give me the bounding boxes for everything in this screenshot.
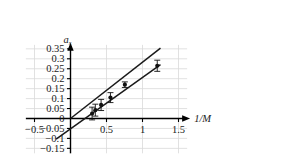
y-tick-label: 0.25 <box>46 63 64 74</box>
x-tick-label: 1 <box>140 124 145 135</box>
y-tick-label: 0.1 <box>51 93 64 104</box>
data-point-marker <box>90 111 94 115</box>
y-axis-title-subscript: s <box>69 39 72 47</box>
y-tick-label: 0 <box>59 113 64 124</box>
scatter-plot-with-fit-lines: −0.15−0.1−0.0500.050.10.150.20.250.30.35… <box>0 0 281 167</box>
data-point-marker <box>123 83 127 87</box>
y-tick-label: 0.35 <box>46 43 64 54</box>
y-tick-label: −0.15 <box>40 143 64 154</box>
data-point-marker <box>108 96 112 100</box>
y-tick-label: 0.2 <box>51 73 64 84</box>
x-tick-label: −0.5 <box>25 124 44 135</box>
y-tick-label: −0.1 <box>45 133 64 144</box>
y-tick-label: 0.3 <box>51 53 64 64</box>
data-point-marker <box>155 64 159 68</box>
data-point-marker <box>93 108 97 112</box>
plot-background <box>0 0 281 167</box>
x-tick-label: 0.5 <box>100 124 113 135</box>
y-tick-label: 0.15 <box>46 83 64 94</box>
x-axis-title: 1/M <box>194 113 212 124</box>
chart-figure: −0.15−0.1−0.0500.050.10.150.20.250.30.35… <box>0 0 281 167</box>
x-tick-label: 1.5 <box>172 124 185 135</box>
data-point-marker <box>99 103 103 107</box>
y-tick-label: 0.05 <box>46 103 64 114</box>
